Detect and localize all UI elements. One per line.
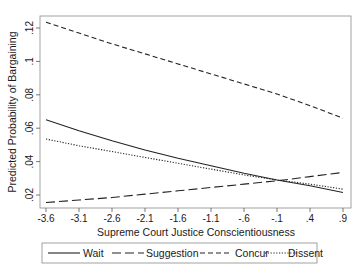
y-tick-label: .1 (24, 57, 35, 66)
x-tick-label: -3.1 (70, 213, 88, 224)
x-axis-label: Supreme Court Justice Conscientiousness (97, 226, 295, 238)
chart: .02.04.06.08.1.12 -3.6-3.1-2.6-2.1-1.6-1… (0, 0, 364, 274)
x-tick-label: .4 (306, 213, 315, 224)
y-tick-label: .02 (24, 188, 35, 202)
y-tick-label: .12 (24, 21, 35, 35)
legend-label-concur: Concur (235, 247, 269, 259)
y-axis-label: Predicted Probability of Bargaining (6, 31, 18, 192)
plot-area (40, 16, 351, 208)
legend-label-dissent: Dissent (288, 247, 323, 259)
x-tick-label: -.1 (271, 213, 283, 224)
y-tick-label: .06 (24, 121, 35, 135)
x-tick-label: .9 (339, 213, 348, 224)
x-tick-label: -1.6 (169, 213, 187, 224)
x-tick-label: -.6 (238, 213, 250, 224)
legend-label-suggestion: Suggestion (146, 247, 199, 259)
x-tick-label: -1.1 (202, 213, 220, 224)
x-tick-label: -3.6 (37, 213, 55, 224)
y-tick-label: .04 (24, 154, 35, 168)
y-tick-label: .08 (24, 87, 35, 101)
x-tick-label: -2.6 (103, 213, 121, 224)
legend-label-wait: Wait (83, 247, 104, 259)
x-tick-label: -2.1 (136, 213, 154, 224)
